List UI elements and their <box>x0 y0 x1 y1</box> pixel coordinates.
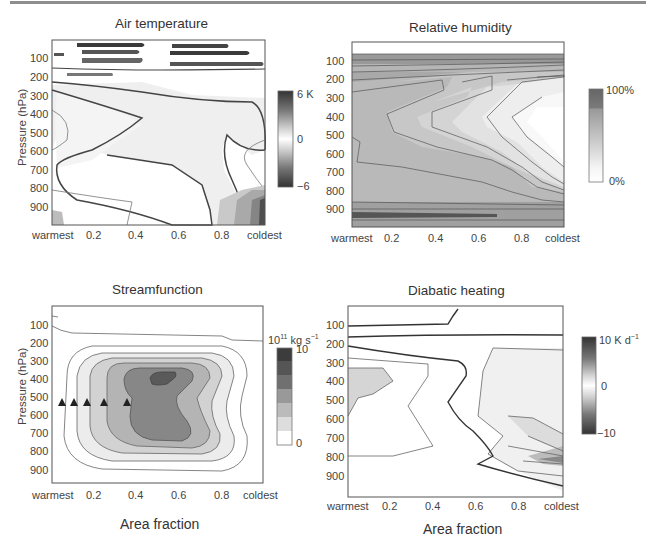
x-tick: 0.4 <box>128 489 143 501</box>
x-tick: 0.8 <box>214 229 229 241</box>
colorbar-max-label: 100% <box>606 84 634 96</box>
panel-title: Relative humidity <box>409 20 512 35</box>
x-tick: 0.6 <box>171 489 186 501</box>
x-axis-label: Area fraction <box>120 516 199 532</box>
y-tick: 300 <box>30 90 48 102</box>
y-tick: 600 <box>30 145 48 157</box>
x-tick: 0.6 <box>171 229 186 241</box>
x-tick: 0.2 <box>86 489 101 501</box>
contour-plot <box>348 306 563 497</box>
panel-title: Diabatic heating <box>408 283 505 298</box>
x-tick: coldest <box>243 489 278 501</box>
y-tick: 600 <box>326 413 344 425</box>
y-tick: 200 <box>326 338 344 350</box>
colorbar-max-label: 10 <box>296 343 308 355</box>
colorbar-max-label: 10 K d−1 <box>599 333 639 346</box>
y-tick: 800 <box>30 445 48 457</box>
x-tick: warmest <box>32 229 74 241</box>
colorbar <box>277 348 292 445</box>
y-tick: 100 <box>30 319 48 331</box>
x-tick: warmest <box>327 500 369 512</box>
y-tick: 500 <box>30 127 48 139</box>
y-tick: 700 <box>30 164 48 176</box>
colorbar-mid-label: 0 <box>297 133 303 145</box>
y-tick: 400 <box>326 375 344 387</box>
y-tick: 600 <box>30 409 48 421</box>
x-tick: 0.8 <box>214 489 229 501</box>
y-tick: 400 <box>30 373 48 385</box>
y-axis-label: Pressure (hPa) <box>16 348 28 425</box>
y-tick: 900 <box>326 203 344 215</box>
panel-title: Streamfunction <box>112 282 203 297</box>
y-tick: 200 <box>326 73 344 85</box>
colorbar <box>589 89 603 182</box>
x-tick: 0.2 <box>382 500 397 512</box>
y-tick: 400 <box>30 108 48 120</box>
x-tick: 0.6 <box>471 232 486 244</box>
x-tick: 0.2 <box>384 232 399 244</box>
colorbar <box>278 91 293 187</box>
y-tick: 600 <box>326 148 344 160</box>
x-tick: 0.4 <box>128 229 143 241</box>
y-tick: 400 <box>326 111 344 123</box>
x-tick: warmest <box>32 489 74 501</box>
y-tick: 300 <box>326 357 344 369</box>
colorbar-unit-label: 1011 kg s−1 <box>268 333 319 346</box>
y-tick: 300 <box>30 355 48 367</box>
x-tick: 0.4 <box>425 500 440 512</box>
panel-title: Air temperature <box>115 16 208 31</box>
y-tick: 700 <box>326 166 344 178</box>
x-axis-label: Area fraction <box>423 521 502 537</box>
x-tick: 0.6 <box>468 500 483 512</box>
x-tick: 0.4 <box>428 232 443 244</box>
colorbar <box>582 337 596 434</box>
x-tick: coldest <box>247 229 282 241</box>
x-tick: warmest <box>331 232 373 244</box>
y-axis-label: Pressure (hPa) <box>16 89 28 166</box>
colorbar-min-label: −10 <box>597 427 616 439</box>
y-tick: 900 <box>30 201 48 213</box>
top-rule <box>10 1 646 4</box>
y-tick: 200 <box>30 337 48 349</box>
y-tick: 800 <box>326 451 344 463</box>
y-tick: 800 <box>30 182 48 194</box>
colorbar-min-label: 0 <box>296 437 302 449</box>
contour-plot <box>52 306 263 483</box>
y-tick: 800 <box>326 185 344 197</box>
x-tick: 0.8 <box>511 500 526 512</box>
colorbar-mid-label: 0 <box>601 380 607 392</box>
contour-plot <box>352 42 564 227</box>
y-tick: 200 <box>30 71 48 83</box>
colorbar-max-label: 6 K <box>297 88 314 100</box>
contour-plot <box>52 40 265 225</box>
y-tick: 700 <box>30 427 48 439</box>
x-tick: coldest <box>545 232 580 244</box>
colorbar-min-label: 0% <box>609 175 625 187</box>
y-tick: 100 <box>326 55 344 67</box>
y-tick: 500 <box>326 129 344 141</box>
colorbar-min-label: −6 <box>297 180 310 192</box>
y-tick: 500 <box>30 391 48 403</box>
y-tick: 300 <box>326 92 344 104</box>
y-tick: 500 <box>326 394 344 406</box>
x-tick: coldest <box>544 500 579 512</box>
y-tick: 100 <box>30 52 48 64</box>
y-tick: 700 <box>326 432 344 444</box>
x-tick: 0.2 <box>86 229 101 241</box>
x-tick: 0.8 <box>514 232 529 244</box>
y-tick: 100 <box>326 319 344 331</box>
y-tick: 900 <box>326 470 344 482</box>
y-tick: 900 <box>30 464 48 476</box>
